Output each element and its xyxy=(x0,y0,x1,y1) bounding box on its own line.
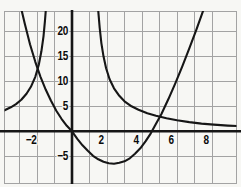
x-tick-label: 6 xyxy=(168,133,173,146)
curve-hyperbola-right-branch xyxy=(97,0,241,126)
x-tick-label: −2 xyxy=(26,133,37,146)
x-tick-label: 4 xyxy=(133,133,139,146)
x-tick-label: 2 xyxy=(98,133,103,146)
y-tick-label: 15 xyxy=(58,49,69,62)
graph-figure: −224682015105−5 xyxy=(0,0,241,187)
y-tick-label: 10 xyxy=(58,74,69,87)
y-tick-label: −5 xyxy=(57,149,68,162)
y-tick-label: 20 xyxy=(58,24,69,37)
curve-parabola xyxy=(20,0,209,164)
x-tick-label: 8 xyxy=(203,133,208,146)
y-tick-label: 5 xyxy=(63,99,68,112)
curve-hyperbola-left-branch xyxy=(5,0,47,110)
coordinate-grid-chart: −224682015105−5 xyxy=(0,0,241,187)
